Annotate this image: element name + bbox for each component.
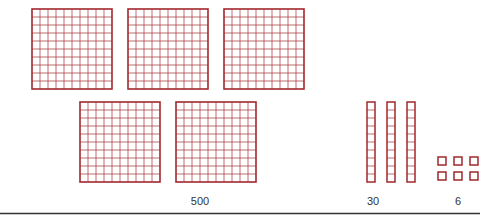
hundred-flat xyxy=(224,9,304,89)
unit-cube xyxy=(470,172,478,180)
unit-cube xyxy=(438,172,446,180)
ten-rod xyxy=(407,102,415,182)
hundreds-label: 500 xyxy=(191,195,209,207)
hundred-flat xyxy=(80,102,160,182)
ten-rod xyxy=(367,102,375,182)
hundred-flat xyxy=(32,9,112,89)
unit-cube xyxy=(454,157,462,165)
hundred-flat xyxy=(128,9,208,89)
hundred-flat xyxy=(176,102,256,182)
ten-rod xyxy=(387,102,395,182)
ones-label: 6 xyxy=(455,195,461,207)
unit-cube xyxy=(438,157,446,165)
tens-label: 30 xyxy=(367,195,379,207)
unit-cube xyxy=(454,172,462,180)
unit-cube xyxy=(470,157,478,165)
base-ten-diagram xyxy=(0,0,493,224)
